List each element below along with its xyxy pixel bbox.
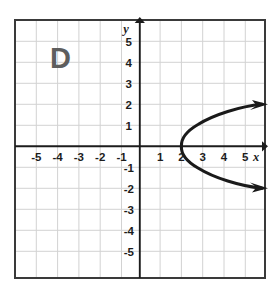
y-tick-label: 4 bbox=[126, 57, 133, 69]
x-tick-label: 5 bbox=[242, 151, 249, 163]
y-tick-label: -4 bbox=[124, 225, 135, 237]
x-axis-label: x bbox=[252, 150, 259, 164]
x-tick-label: 4 bbox=[221, 151, 228, 163]
x-tick-label: -3 bbox=[74, 151, 84, 163]
y-tick-label: -1 bbox=[124, 162, 135, 174]
x-tick-label: -4 bbox=[52, 151, 63, 163]
x-tick-label: -5 bbox=[31, 151, 42, 163]
y-tick-label: 1 bbox=[126, 120, 133, 132]
y-tick-label: -2 bbox=[124, 183, 134, 195]
y-tick-label: 3 bbox=[126, 78, 132, 90]
y-tick-label: -3 bbox=[124, 204, 134, 216]
graph-figure: y x -5 -4 -3 -2 -1 1 2 3 4 5 5 4 3 2 1 -… bbox=[0, 0, 278, 301]
x-tick-label: 3 bbox=[199, 151, 205, 163]
y-tick-label: 5 bbox=[126, 36, 133, 48]
y-axis-label: y bbox=[121, 22, 129, 36]
y-tick-label: 2 bbox=[126, 99, 132, 111]
coordinate-plane: y x -5 -4 -3 -2 -1 1 2 3 4 5 5 4 3 2 1 -… bbox=[0, 0, 278, 301]
x-tick-label: -2 bbox=[95, 151, 105, 163]
y-tick-label: -5 bbox=[124, 246, 135, 258]
panel-letter-label: D bbox=[50, 42, 71, 74]
x-tick-label: 1 bbox=[157, 151, 164, 163]
